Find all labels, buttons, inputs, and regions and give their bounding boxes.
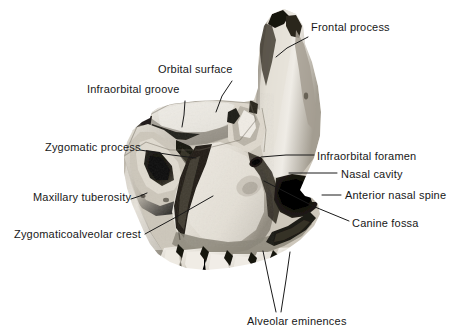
label-alveolar-eminences: Alveolar eminences xyxy=(247,316,347,327)
label-orbital-surface: Orbital surface xyxy=(158,64,233,75)
label-zygomaticoalveolar-crest: Zygomaticoalveolar crest xyxy=(14,229,141,240)
label-nasal-cavity: Nasal cavity xyxy=(341,169,403,180)
label-frontal-process: Frontal process xyxy=(311,22,390,33)
label-infraorbital-foramen: Infraorbital foramen xyxy=(317,151,416,162)
label-maxillary-tuberosity: Maxillary tuberosity xyxy=(33,192,131,203)
maxilla-figure: Frontal process Orbital surface Infraorb… xyxy=(0,0,461,335)
label-anterior-nasal-spine: Anterior nasal spine xyxy=(345,190,446,201)
label-zygomatic-process: Zygomatic process xyxy=(45,142,141,153)
label-canine-fossa: Canine fossa xyxy=(352,218,419,229)
label-infraorbital-groove: Infraorbital groove xyxy=(87,84,179,95)
